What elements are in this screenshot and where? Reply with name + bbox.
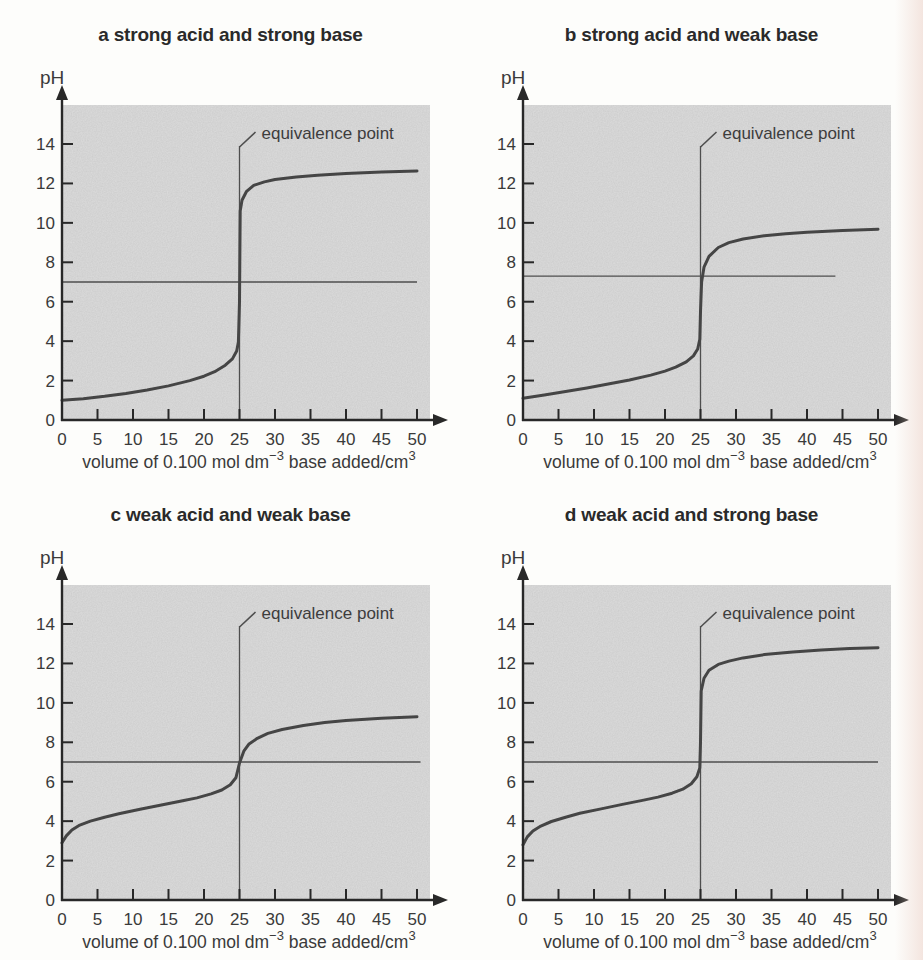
y-tick-label: 8 xyxy=(507,733,516,752)
y-tick-label: 0 xyxy=(46,891,55,910)
y-axis-label: pH xyxy=(40,67,64,88)
x-tick-label: 15 xyxy=(620,430,639,449)
x-axis-arrow-icon xyxy=(894,414,909,426)
y-axis-label: pH xyxy=(501,547,525,568)
plot-grain-texture xyxy=(62,105,430,420)
y-tick-label: 6 xyxy=(46,773,55,792)
x-tick-label: 30 xyxy=(727,910,746,929)
x-tick-label: 30 xyxy=(266,910,285,929)
x-tick-label: 50 xyxy=(408,430,427,449)
y-tick-label: 10 xyxy=(36,214,55,233)
y-tick-label: 12 xyxy=(497,654,516,673)
x-tick-label: 50 xyxy=(869,910,888,929)
x-axis-label: volume of 0.100 mol dm−3 base added/cm3 xyxy=(543,448,876,472)
x-tick-label: 40 xyxy=(798,910,817,929)
x-axis-arrow-icon xyxy=(433,414,448,426)
y-tick-label: 0 xyxy=(507,411,516,430)
x-tick-label: 45 xyxy=(372,430,391,449)
x-tick-label: 40 xyxy=(337,910,356,929)
y-tick-label: 4 xyxy=(507,332,516,351)
x-tick-label: 50 xyxy=(408,910,427,929)
x-tick-label: 5 xyxy=(93,430,102,449)
x-tick-label: 0 xyxy=(57,430,66,449)
x-tick-label: 5 xyxy=(554,910,563,929)
y-tick-label: 0 xyxy=(46,411,55,430)
x-tick-label: 35 xyxy=(301,430,320,449)
y-tick-label: 14 xyxy=(36,135,55,154)
x-tick-label: 10 xyxy=(585,910,604,929)
plot-grain-texture xyxy=(62,585,430,900)
y-axis-label: pH xyxy=(40,547,64,568)
x-tick-label: 25 xyxy=(230,910,249,929)
x-axis-arrow-icon xyxy=(894,894,909,906)
x-tick-label: 0 xyxy=(57,910,66,929)
x-tick-label: 25 xyxy=(691,430,710,449)
y-tick-label: 4 xyxy=(507,812,516,831)
y-tick-label: 2 xyxy=(507,372,516,391)
chart-grid: a strong acid and strong base equivalenc… xyxy=(0,0,922,960)
x-tick-label: 10 xyxy=(124,430,143,449)
x-tick-label: 20 xyxy=(656,430,675,449)
x-tick-label: 25 xyxy=(230,430,249,449)
x-tick-label: 30 xyxy=(727,430,746,449)
y-tick-label: 0 xyxy=(507,891,516,910)
x-tick-label: 0 xyxy=(518,910,527,929)
chart-plot-d: equivalence point02468101214051015202530… xyxy=(461,480,922,960)
x-tick-label: 10 xyxy=(124,910,143,929)
chart-plot-c: equivalence point02468101214051015202530… xyxy=(0,480,461,960)
y-tick-label: 14 xyxy=(497,615,516,634)
y-axis-label: pH xyxy=(501,67,525,88)
y-tick-label: 12 xyxy=(36,654,55,673)
y-tick-label: 4 xyxy=(46,812,55,831)
y-tick-label: 10 xyxy=(36,694,55,713)
x-tick-label: 20 xyxy=(656,910,675,929)
x-tick-label: 45 xyxy=(372,910,391,929)
equivalence-point-label: equivalence point xyxy=(262,604,395,623)
x-tick-label: 45 xyxy=(833,910,852,929)
x-tick-label: 45 xyxy=(833,430,852,449)
x-tick-label: 35 xyxy=(762,430,781,449)
y-tick-label: 12 xyxy=(497,174,516,193)
x-tick-label: 40 xyxy=(337,430,356,449)
x-tick-label: 25 xyxy=(691,910,710,929)
panel-d-weak-acid-strong-base: d weak acid and strong base equivalence … xyxy=(461,480,922,960)
x-tick-label: 50 xyxy=(869,430,888,449)
y-tick-label: 6 xyxy=(507,293,516,312)
y-tick-label: 8 xyxy=(507,253,516,272)
y-tick-label: 12 xyxy=(36,174,55,193)
chart-plot-a: equivalence point02468101214051015202530… xyxy=(0,0,461,480)
x-axis-label: volume of 0.100 mol dm−3 base added/cm3 xyxy=(82,448,415,472)
plot-grain-texture xyxy=(523,585,891,900)
y-tick-label: 14 xyxy=(36,615,55,634)
y-tick-label: 6 xyxy=(507,773,516,792)
x-axis-label: volume of 0.100 mol dm−3 base added/cm3 xyxy=(543,928,876,952)
x-tick-label: 15 xyxy=(159,910,178,929)
y-tick-label: 14 xyxy=(497,135,516,154)
panel-a-strong-acid-strong-base: a strong acid and strong base equivalenc… xyxy=(0,0,461,480)
y-tick-label: 2 xyxy=(46,852,55,871)
y-tick-label: 10 xyxy=(497,694,516,713)
equivalence-point-label: equivalence point xyxy=(262,124,395,143)
panel-c-weak-acid-weak-base: c weak acid and weak base equivalence po… xyxy=(0,480,461,960)
x-tick-label: 35 xyxy=(762,910,781,929)
x-tick-label: 10 xyxy=(585,430,604,449)
x-axis-label: volume of 0.100 mol dm−3 base added/cm3 xyxy=(82,928,415,952)
x-tick-label: 20 xyxy=(195,430,214,449)
y-tick-label: 4 xyxy=(46,332,55,351)
x-tick-label: 40 xyxy=(798,430,817,449)
equivalence-point-label: equivalence point xyxy=(723,604,856,623)
x-tick-label: 5 xyxy=(554,430,563,449)
panel-b-strong-acid-weak-base: b strong acid and weak base equivalence … xyxy=(461,0,922,480)
x-tick-label: 15 xyxy=(159,430,178,449)
x-tick-label: 5 xyxy=(93,910,102,929)
x-tick-label: 15 xyxy=(620,910,639,929)
equivalence-point-label: equivalence point xyxy=(723,124,856,143)
x-tick-label: 30 xyxy=(266,430,285,449)
chart-plot-b: equivalence point02468101214051015202530… xyxy=(461,0,922,480)
y-tick-label: 10 xyxy=(497,214,516,233)
titration-curves-figure: a strong acid and strong base equivalenc… xyxy=(0,0,923,960)
x-tick-label: 35 xyxy=(301,910,320,929)
y-tick-label: 8 xyxy=(46,253,55,272)
y-tick-label: 6 xyxy=(46,293,55,312)
x-axis-arrow-icon xyxy=(433,894,448,906)
